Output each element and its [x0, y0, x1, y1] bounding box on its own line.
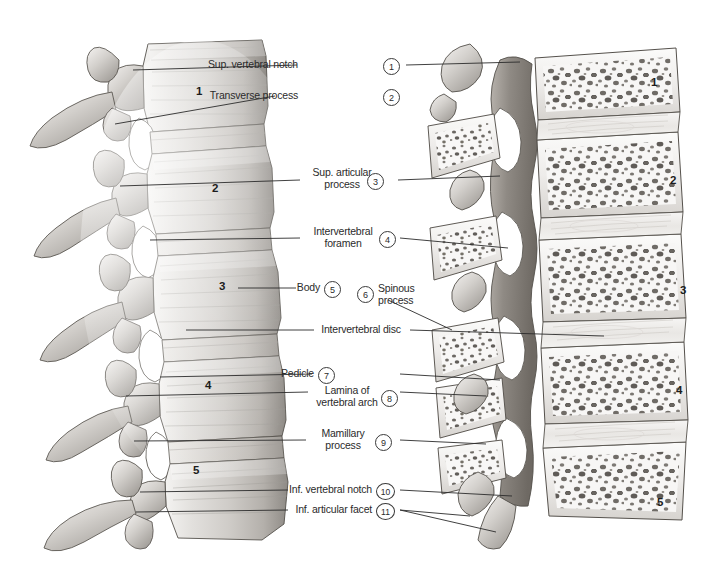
- label-lamina-line2: vertebral arch: [308, 397, 386, 409]
- body-L5-sagittal: [543, 442, 686, 520]
- body-L4-sagittal: [541, 342, 688, 424]
- label-pedicle: Pedicle: [244, 368, 314, 380]
- left-vertebra-number-5: 5: [193, 464, 199, 476]
- key-number-5: 5: [324, 281, 341, 298]
- key-number-1: 1: [383, 58, 400, 75]
- right-vertebra-number-5: 5: [657, 496, 663, 508]
- label-inf-vertebral-notch: Inf. vertebral notch: [180, 484, 372, 496]
- left-lateral-spine: [30, 40, 320, 551]
- right-vertebra-number-1: 1: [651, 76, 657, 88]
- figure-canvas: 1 2 3 4 5 1 2 3 4 5 Sup. vertebral notch…: [0, 0, 716, 571]
- key-number-10: 10: [376, 483, 395, 500]
- left-vertebra-number-4: 4: [205, 379, 211, 391]
- label-lamina-line1: Lamina of: [308, 385, 386, 397]
- right-vertebra-number-4: 4: [676, 384, 682, 396]
- right-sagittal-spine: [428, 44, 688, 549]
- key-number-4: 4: [379, 231, 396, 248]
- label-body: Body: [250, 282, 320, 294]
- body-L1-sagittal: [535, 48, 680, 120]
- label-mamillary-process-line1: Mamillary: [306, 428, 380, 440]
- label-intervertebral-foramen-line1: Intervertebral: [300, 226, 386, 238]
- left-vertebra-number-3: 3: [219, 280, 225, 292]
- right-vertebra-number-3: 3: [680, 284, 686, 296]
- body-L3-sagittal: [539, 234, 686, 322]
- label-mamillary-process-line2: process: [306, 440, 380, 452]
- body-L2-sagittal: [537, 132, 683, 218]
- label-transverse-process: Transverse process: [180, 90, 298, 102]
- key-number-11: 11: [376, 503, 395, 520]
- label-spinous-process-line1: Spinous: [378, 283, 438, 295]
- key-number-2: 2: [383, 89, 400, 106]
- label-sup-vertebral-notch: Sup. vertebral notch: [180, 59, 298, 71]
- right-vertebra-number-2: 2: [670, 174, 676, 186]
- key-number-8: 8: [381, 390, 398, 407]
- key-number-6: 6: [357, 286, 374, 303]
- left-vertebra-number-2: 2: [212, 182, 218, 194]
- label-intervertebral-disc: Intervertebral disc: [313, 324, 409, 336]
- key-number-7: 7: [318, 367, 335, 384]
- label-inf-articular-facet: Inf. articular facet: [180, 504, 372, 516]
- label-spinous-process-line2: process: [378, 295, 438, 307]
- key-number-3: 3: [367, 173, 384, 190]
- label-intervertebral-foramen-line2: foramen: [300, 238, 386, 250]
- key-number-9: 9: [375, 434, 392, 451]
